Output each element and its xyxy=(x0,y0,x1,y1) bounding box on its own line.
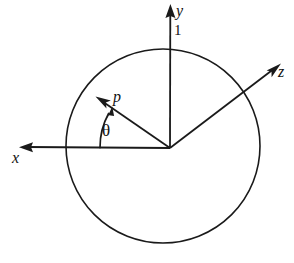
x-axis-label: x xyxy=(12,150,19,166)
theta-angle-label: θ xyxy=(102,122,110,139)
vector-p-line xyxy=(104,103,170,149)
unit-circle xyxy=(66,49,260,243)
x-axis-arrowhead xyxy=(19,142,33,152)
unit-tick-label: 1 xyxy=(174,23,182,38)
z-axis-line xyxy=(170,70,273,149)
figure-container: y x z p 1 θ xyxy=(0,0,294,263)
vector-p-arrowhead xyxy=(96,97,111,109)
diagram-canvas xyxy=(0,0,294,263)
z-axis-label: z xyxy=(278,64,284,80)
vector-p-label: p xyxy=(113,89,121,105)
y-axis-arrowhead xyxy=(165,4,175,18)
x-axis-line xyxy=(27,147,170,148)
y-axis-label: y xyxy=(176,3,183,19)
